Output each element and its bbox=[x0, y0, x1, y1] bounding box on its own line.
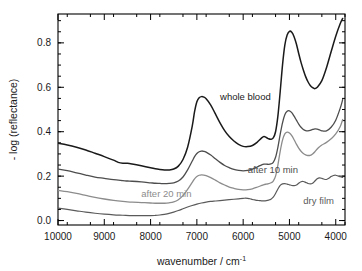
x-tick-label: 7000 bbox=[186, 231, 209, 242]
label-after-10-min: after 10 min bbox=[248, 164, 298, 175]
reflectance-spectrum-chart: 10000900080007000600050004000 0.00.20.40… bbox=[0, 0, 362, 271]
x-tick-label: 4000 bbox=[325, 231, 348, 242]
chart-container: 10000900080007000600050004000 0.00.20.40… bbox=[0, 0, 362, 271]
x-tick-label: 5000 bbox=[278, 231, 301, 242]
x-tick-label: 6000 bbox=[232, 231, 255, 242]
label-after-20-min: after 20 min bbox=[141, 188, 191, 199]
x-tick-label: 9000 bbox=[93, 231, 116, 242]
y-tick-label: 0.4 bbox=[37, 126, 51, 137]
x-tick-label: 10000 bbox=[44, 231, 72, 242]
y-axis-title: - log (reflectance) bbox=[7, 79, 19, 161]
label-whole-blood: whole blood bbox=[219, 91, 271, 102]
x-tick-label: 8000 bbox=[139, 231, 162, 242]
y-tick-label: 0.6 bbox=[37, 82, 51, 93]
label-dry-film: dry film bbox=[303, 195, 334, 206]
y-tick-label: 0.2 bbox=[37, 171, 51, 182]
x-axis-title: wavenumber / cm-1 bbox=[156, 255, 246, 267]
y-tick-label: 0.8 bbox=[37, 37, 51, 48]
y-tick-label: 0.0 bbox=[37, 215, 51, 226]
